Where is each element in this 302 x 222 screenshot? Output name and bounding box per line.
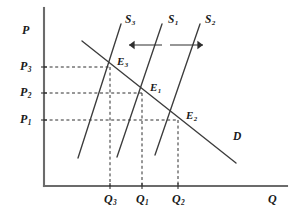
quantity-tick-label-q1: Q1 (136, 193, 149, 205)
demand-curve-label: D (233, 131, 241, 143)
supply-label-s1: S1 (168, 14, 178, 26)
equilibrium-label-e1-subscript: 1 (158, 87, 161, 94)
quantity-tick-label-q3-subscript: 3 (113, 198, 117, 207)
supply-curves-group (78, 24, 200, 158)
price-tick-label-p1: P1 (20, 113, 31, 125)
quantity-axis-label: Q (268, 193, 277, 205)
diagram-canvas (0, 0, 302, 222)
supply-label-s3: S3 (125, 14, 135, 26)
supply-curve-s3 (78, 24, 121, 158)
equilibrium-label-e3: E3 (117, 56, 128, 67)
price-tick-label-p3-subscript: 3 (28, 65, 32, 74)
supply-curve-s2 (155, 24, 200, 155)
supply-label-s1-subscript: 1 (175, 19, 179, 27)
supply-label-s3-subscript: 3 (132, 19, 136, 27)
price-axis-label: P (22, 24, 29, 36)
equilibrium-label-e1: E1 (150, 82, 161, 93)
price-tick-label-p2-subscript: 2 (28, 91, 32, 100)
quantity-tick-label-q2: Q2 (172, 193, 185, 205)
supply-label-s2: S2 (205, 14, 215, 26)
price-tick-label-p1-subscript: 1 (28, 118, 32, 127)
equilibrium-label-e2: E2 (186, 110, 197, 121)
quantity-tick-label-q2-subscript: 2 (181, 198, 185, 207)
axes-group (44, 8, 287, 186)
equilibrium-label-e3-subscript: 3 (125, 61, 128, 68)
shift-arrow-left-head (129, 41, 135, 49)
price-tick-label-p2: P2 (20, 86, 31, 98)
quantity-tick-label-q3: Q3 (104, 193, 117, 205)
supply-label-s2-subscript: 2 (212, 19, 216, 27)
quantity-tick-label-q1-subscript: 1 (145, 198, 149, 207)
shift-arrow-right-head (197, 41, 203, 49)
price-tick-label-p3: P3 (20, 60, 31, 72)
equilibrium-label-e2-subscript: 2 (194, 115, 197, 122)
supply-demand-figure: P Q P3P2P1 Q3Q1Q2 S3S1S2 E3E1E2 D (0, 0, 302, 222)
